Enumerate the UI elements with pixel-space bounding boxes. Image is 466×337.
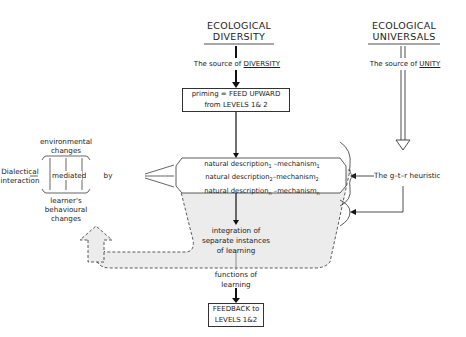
functions-of-learning: functions of learning: [206, 270, 266, 290]
label-line: learner's: [36, 196, 96, 205]
label-line: learning: [206, 280, 266, 290]
description-item: natural descriptionn –mechanismn: [182, 186, 342, 199]
by-label: by: [100, 171, 116, 180]
mediated-label: mediated: [52, 171, 82, 180]
priming-box: priming = FEED UPWARD from LEVELS 1& 2: [182, 88, 290, 112]
source-of-diversity: The source of DIVERSITY: [182, 60, 292, 69]
title-line: DIVERSITY: [204, 31, 274, 42]
priming-line: priming = FEED UPWARD: [183, 89, 289, 100]
source-emph: UNITY: [419, 60, 440, 68]
description-list: natural description1 –mechanism1 natural…: [182, 159, 342, 199]
label-line: changes: [36, 214, 96, 223]
label-line: behavioural: [36, 205, 96, 214]
source-prefix: The source of: [370, 60, 420, 68]
source-of-unity: The source of UNITY: [360, 60, 450, 69]
integration-label: integration of separate instances of lea…: [196, 226, 276, 256]
description-item: natural description2–mechanism2: [182, 172, 342, 185]
source-prefix: The source of: [194, 60, 244, 68]
gtr-heuristic: The g–t–r heuristic: [374, 171, 464, 180]
label-line: integration of: [196, 226, 276, 236]
label-line: separate instances: [196, 236, 276, 246]
label-line: interaction: [0, 176, 40, 185]
feedback-line: FEEDBACK to: [209, 304, 263, 315]
title-line: ECOLOGICAL: [204, 20, 274, 31]
label-line: functions of: [206, 270, 266, 280]
title-ecological-universals: ECOLOGICAL UNIVERSALS: [366, 20, 442, 42]
feedback-line: LEVELS 1&2: [209, 315, 263, 326]
title-ecological-diversity: ECOLOGICAL DIVERSITY: [204, 20, 274, 42]
feedback-box: FEEDBACK to LEVELS 1&2: [208, 303, 264, 327]
dialectical-interaction: Dialectical interaction: [0, 167, 40, 185]
environmental-changes: environmental changes: [36, 137, 96, 155]
label-line: changes: [36, 146, 96, 155]
description-item: natural description1 –mechanism1: [182, 159, 342, 172]
source-emph: DIVERSITY: [244, 60, 281, 68]
learner-behavioural-changes: learner's behavioural changes: [36, 196, 96, 223]
title-line: ECOLOGICAL: [366, 20, 442, 31]
label-line: environmental: [36, 137, 96, 146]
label-line: of learning: [196, 246, 276, 256]
title-line: UNIVERSALS: [366, 31, 442, 42]
priming-line: from LEVELS 1& 2: [183, 100, 289, 111]
label-line: Dialectical: [0, 167, 40, 176]
